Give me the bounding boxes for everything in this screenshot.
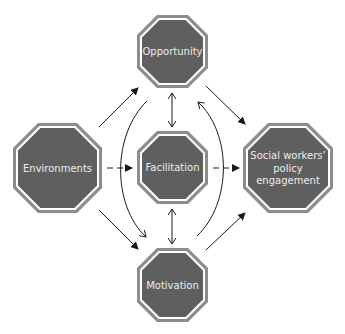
node-opportunity: Opportunity — [137, 15, 208, 88]
edge-motivation-social — [206, 213, 245, 250]
node-label-motivation: Motivation — [146, 280, 199, 291]
node-label-social-line1: Social workers’ — [250, 150, 325, 161]
node-facilitation: Facilitation — [137, 131, 208, 204]
conceptual-diagram: Opportunity Environments Facilitation So… — [0, 0, 345, 334]
edge-opportunity-social — [206, 86, 245, 124]
node-motivation: Motivation — [137, 248, 208, 322]
node-label-social-line2: policy — [273, 163, 303, 174]
node-environments: Environments — [13, 123, 102, 213]
node-label-facilitation: Facilitation — [146, 162, 200, 173]
edge-environments-motivation — [99, 210, 138, 249]
node-social-workers-policy-engagement: Social workers’ policy engagement — [243, 123, 333, 213]
node-label-environments: Environments — [23, 163, 92, 174]
node-label-opportunity: Opportunity — [142, 46, 202, 57]
node-label-social-line3: engagement — [256, 175, 320, 186]
